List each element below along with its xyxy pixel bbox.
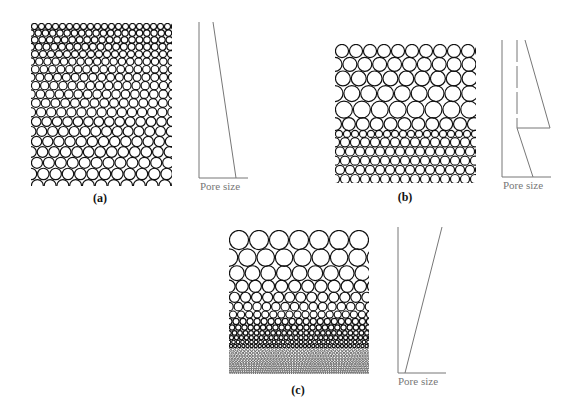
- pore-size-figure: [0, 0, 577, 413]
- particle-array-c: [209, 230, 403, 377]
- panel-label-c: (c): [291, 383, 304, 398]
- pore-size-plot-b: [502, 40, 551, 177]
- pore-size-axis-label-a: Pore size: [200, 180, 240, 192]
- pore-size-axis-label-c: Pore size: [398, 375, 438, 387]
- particle-array-a: [19, 23, 197, 191]
- particle-array-b: [318, 44, 503, 192]
- pore-size-axis-label-b: Pore size: [503, 179, 543, 191]
- panel-label-a: (a): [93, 191, 107, 206]
- panel-label-b: (b): [398, 190, 413, 205]
- pore-size-plot-a: [199, 22, 248, 178]
- pore-size-plot-c: [398, 227, 446, 373]
